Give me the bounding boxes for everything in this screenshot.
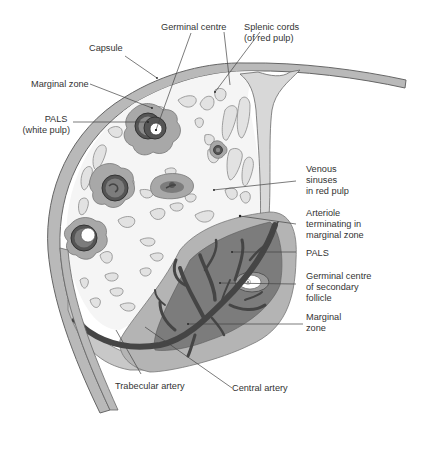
label-venous-sinuses: Venous sinuses in red pulp [306, 164, 349, 196]
label-pals-white-pulp: PALS (white pulp) [23, 114, 71, 135]
follicle-center [151, 174, 194, 199]
label-arteriole: Arteriole terminating in marginal zone [306, 208, 364, 240]
label-germinal-secondary: Germinal centre of secondary follicle [306, 271, 374, 303]
label-marginal-zone-top: Marginal zone [31, 79, 89, 89]
label-marginal-zone-right: Marginal zone [306, 312, 344, 333]
spleen-diagram: Germinal centre Splenic cords (of red pu… [0, 0, 425, 455]
label-germinal-centre: Germinal centre [161, 22, 226, 32]
label-trabecular-artery: Trabecular artery [115, 381, 185, 391]
label-central-artery: Central artery [232, 383, 288, 393]
label-splenic-cords: Splenic cords (of red pulp) [244, 22, 302, 43]
label-pals-right: PALS [306, 248, 329, 258]
label-capsule: Capsule [89, 43, 123, 53]
